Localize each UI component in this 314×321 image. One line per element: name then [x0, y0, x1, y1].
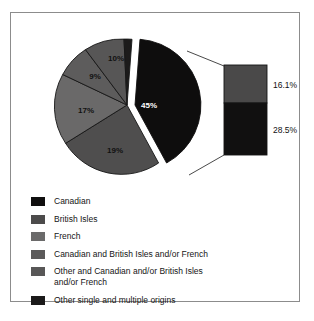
- pie-label-45: 45%: [141, 101, 157, 110]
- pie-label-9: 9%: [89, 72, 101, 81]
- legend-swatch-icon: [31, 267, 45, 276]
- callout-connector-top: [187, 51, 224, 66]
- figure-frame: 45% 19% 17% 9% 10% 16.1% 28.5% Canadian …: [10, 12, 300, 302]
- legend-item-label: British Isles: [54, 214, 97, 225]
- legend-swatch-icon: [31, 215, 45, 224]
- legend-item-label: Canadian: [54, 196, 90, 207]
- legend-item-british-isles: British Isles: [31, 214, 281, 225]
- chart-legend: Canadian British Isles French Canadian a…: [31, 196, 281, 312]
- legend-item-label: Other and Canadian and/or British Isles …: [54, 266, 203, 288]
- legend-swatch-icon: [31, 296, 45, 305]
- legend-item-other-and-canadian-and-or-british-isles-and-or-french: Other and Canadian and/or British Isles …: [31, 266, 281, 288]
- legend-item-label: French: [54, 231, 80, 242]
- legend-swatch-icon: [31, 232, 45, 241]
- callout-bar-bottom-segment: [224, 103, 267, 155]
- callout-bar-top-segment: [224, 65, 267, 103]
- legend-item-canadian-and-british-isles-and-or-french: Canadian and British Isles and/or French: [31, 249, 281, 260]
- pie-label-10: 10%: [108, 54, 124, 63]
- pie-label-17: 17%: [78, 106, 94, 115]
- legend-item-french: French: [31, 231, 281, 242]
- legend-item-label: Canadian and British Isles and/or French: [54, 249, 208, 260]
- callout-connector-bottom: [189, 155, 224, 175]
- legend-item-label: Other single and multiple origins: [54, 295, 175, 306]
- pie-label-19: 19%: [107, 146, 123, 155]
- pie-chart-svg: 45% 19% 17% 9% 10% 16.1% 28.5%: [11, 13, 299, 188]
- callout-label-bottom: 28.5%: [273, 125, 298, 135]
- legend-item-canadian: Canadian: [31, 196, 281, 207]
- legend-item-other-single-and-multiple-origins: Other single and multiple origins: [31, 295, 281, 306]
- pie-chart-area: 45% 19% 17% 9% 10% 16.1% 28.5%: [11, 13, 299, 188]
- legend-swatch-icon: [31, 197, 45, 206]
- callout-label-top: 16.1%: [273, 80, 298, 90]
- legend-swatch-icon: [31, 250, 45, 259]
